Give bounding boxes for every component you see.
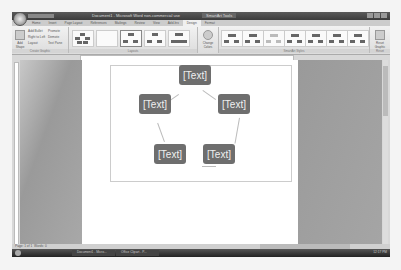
style-2[interactable] <box>242 30 264 47</box>
layout-basic-cycle[interactable] <box>72 30 94 47</box>
group-reset: Reset Graphic Reset <box>370 27 390 53</box>
reset-graphic-icon <box>375 30 385 40</box>
smartart-node[interactable]: [Text] <box>218 94 250 114</box>
workspace-background <box>298 60 382 245</box>
demote-button[interactable]: Demote <box>48 35 59 39</box>
group-label: Reset <box>370 49 390 53</box>
office-button[interactable] <box>13 12 27 26</box>
group-smartart-styles: SmartArt Styles <box>219 27 370 53</box>
workspace-background <box>20 60 82 245</box>
text-pane-button[interactable]: Text Pane <box>48 41 62 45</box>
smartart-node[interactable]: [Text] <box>139 94 171 114</box>
smartart-node[interactable]: [Text] <box>203 144 235 164</box>
group-create-graphic: Add Shape Add Bullet Right to Left Layou… <box>12 27 69 53</box>
change-colors-icon <box>203 30 213 40</box>
reset-graphic-button[interactable]: Reset Graphic <box>374 29 386 49</box>
style-3[interactable] <box>263 30 285 47</box>
window-title: Document1 - Microsoft Word non-commercia… <box>92 13 180 18</box>
right-to-left-button[interactable]: Right to Left <box>28 35 45 39</box>
layout-cycle-2[interactable] <box>144 30 166 47</box>
layout-button[interactable]: Layout <box>28 41 38 45</box>
group-layouts: Layouts <box>69 27 198 53</box>
contextual-tab-label: SmartArt Tools <box>202 13 236 18</box>
layout-cycle-selected[interactable] <box>120 30 142 47</box>
layout-text-cycle[interactable] <box>96 30 118 47</box>
taskbar: Document1 - Micro... Office Clipart - P.… <box>12 249 390 257</box>
add-shape-button[interactable]: Add Shape <box>14 29 26 49</box>
group-label: Layouts <box>69 49 197 53</box>
group-label: SmartArt Styles <box>219 49 369 53</box>
group-label: Create Graphic <box>12 49 68 53</box>
style-4[interactable] <box>284 30 306 47</box>
taskbar-item-clipart[interactable]: Office Clipart - P... <box>116 250 159 256</box>
word-window: Document1 - Microsoft Word non-commercia… <box>12 12 390 257</box>
restore-button[interactable] <box>374 13 380 18</box>
vertical-scrollbar[interactable] <box>383 60 388 248</box>
smartart-node[interactable]: [Text] <box>179 65 211 85</box>
style-7[interactable] <box>347 30 369 47</box>
layout-cycle-3[interactable] <box>168 30 190 47</box>
quick-access-toolbar[interactable] <box>28 14 54 18</box>
add-shape-icon <box>15 30 25 40</box>
style-6[interactable] <box>326 30 348 47</box>
title-bar: Document1 - Microsoft Word non-commercia… <box>12 12 390 20</box>
promote-button[interactable]: Promote <box>48 29 60 33</box>
add-bullet-button[interactable]: Add Bullet <box>28 29 43 33</box>
ribbon: Add Shape Add Bullet Right to Left Layou… <box>12 26 390 55</box>
style-5[interactable] <box>305 30 327 47</box>
vertical-ruler <box>14 62 19 247</box>
taskbar-item-word[interactable]: Document1 - Micro... <box>72 250 115 256</box>
scroll-thumb[interactable] <box>383 66 388 116</box>
smartart-node[interactable]: [Text] <box>154 144 186 164</box>
minimize-button[interactable] <box>367 13 373 18</box>
style-1[interactable] <box>221 30 243 47</box>
change-colors-button[interactable]: Change Colors <box>198 27 219 53</box>
page-count: Page: 1 of 1 Words: 0 <box>15 244 47 248</box>
system-clock: 12:17 PM <box>373 250 387 254</box>
close-button[interactable] <box>381 13 387 18</box>
start-button[interactable] <box>15 250 21 256</box>
cycle-arrow <box>202 166 216 167</box>
